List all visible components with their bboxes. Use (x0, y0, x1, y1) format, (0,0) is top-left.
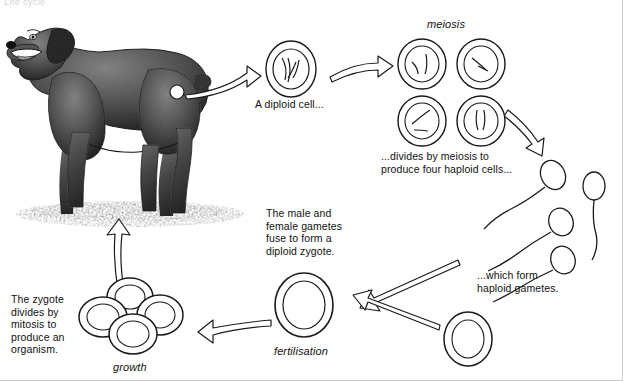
life-cycle-diagram: Life cycle (0, 0, 623, 381)
label-meiosis-caption: ...divides by meiosis to produce four ha… (381, 150, 512, 175)
label-zygote-mitosis: The zygote divides by mitosis to produce… (11, 293, 65, 356)
ground-shadow (16, 201, 244, 227)
label-diploid-cell: A diploid cell... (255, 98, 324, 111)
source-cell-marker (170, 85, 184, 99)
meiosis-cells-figure (398, 39, 505, 146)
arrow-cell-to-meiosis (330, 56, 393, 82)
label-haploid-gametes: ...which form haploid gametes. (477, 269, 559, 294)
growth-cells-figure (79, 278, 183, 354)
egg-cell-figure (444, 312, 492, 366)
label-growth: growth (113, 361, 147, 374)
zygote-figure (275, 273, 333, 337)
label-fuse-zygote: The male and female gametes fuse to form… (266, 207, 342, 257)
diploid-cell-figure (266, 41, 316, 97)
label-fertilisation: fertilisation (274, 345, 328, 358)
arrow-egg-to-zygote (353, 290, 440, 330)
label-meiosis: meiosis (427, 18, 465, 31)
dog-illustration (0, 0, 623, 381)
arrow-zygote-to-growth (198, 320, 271, 343)
